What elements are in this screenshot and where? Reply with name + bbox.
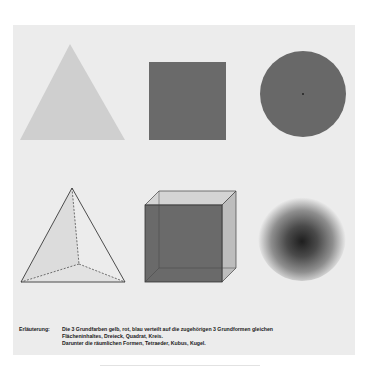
square-shape	[149, 62, 226, 140]
scan-artifact	[100, 365, 260, 366]
caption-line: Darunter die räumlichen Formen, Tetraede…	[62, 340, 362, 347]
caption-text: Die 3 Grundfarben gelb, rot, blau vertei…	[62, 326, 362, 347]
caption-line: Flächeninhaltes, Dreieck, Quadrat, Kreis…	[62, 333, 362, 340]
shapes-figure	[0, 0, 374, 369]
circle-shape	[260, 51, 346, 137]
cube-shape	[145, 191, 236, 282]
caption-line: Die 3 Grundfarben gelb, rot, blau vertei…	[62, 326, 362, 333]
caption-label: Erläuterung:	[19, 326, 50, 333]
tetrahedron-shape	[21, 188, 125, 282]
sphere-shape	[258, 193, 346, 281]
triangle-shape	[20, 44, 125, 140]
